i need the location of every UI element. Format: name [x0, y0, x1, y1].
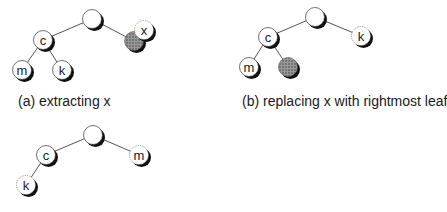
- node-label: k: [358, 29, 365, 44]
- node-label: x: [141, 23, 148, 38]
- tree-node-c-root: [84, 126, 106, 148]
- tree-node-c-k: k: [17, 176, 39, 198]
- tree-node-b-hole: [279, 58, 301, 80]
- tree-node-c-m: m: [130, 146, 152, 168]
- node-label: m: [244, 60, 255, 75]
- tree-node-b-k: k: [352, 27, 374, 49]
- caption-a: (a) extracting x: [18, 93, 111, 109]
- caption-b: (b) replacing x with rightmost leaf: [242, 93, 447, 109]
- node-label: c: [43, 148, 50, 163]
- tree-node-a-root: [83, 10, 105, 32]
- tree-node-b-c: c: [259, 28, 281, 50]
- tree-node-b-m: m: [240, 58, 262, 80]
- tree-node-a-k: k: [53, 61, 75, 83]
- node-label: c: [40, 33, 47, 48]
- node-label: k: [23, 178, 30, 193]
- node-label: m: [134, 148, 145, 163]
- tree-node-a-m: m: [13, 61, 35, 83]
- node-label: k: [59, 63, 66, 78]
- node-label: m: [17, 63, 28, 78]
- tree-node-b-root: [306, 8, 328, 30]
- node-label: c: [265, 30, 272, 45]
